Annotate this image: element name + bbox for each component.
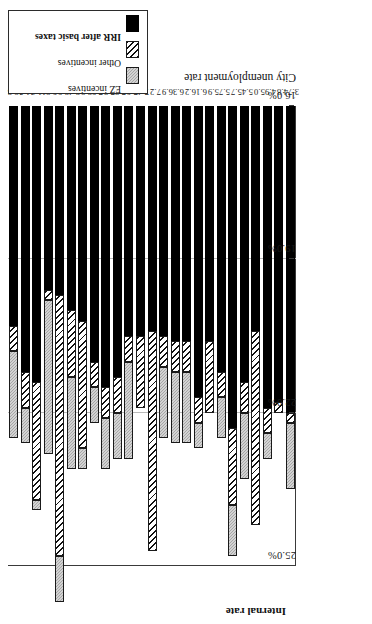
bar-row	[182, 106, 191, 566]
bar-segment-other-incentives	[205, 341, 214, 413]
bar-row	[113, 106, 122, 566]
bar-row	[9, 106, 18, 566]
bar-segment-other-incentives	[113, 377, 122, 413]
bar-segment-irr-after-basic-taxes	[21, 106, 30, 372]
bar-segment-ez-incentives	[228, 505, 237, 556]
bar-segment-other-incentives	[67, 310, 76, 376]
bar-segment-irr-after-basic-taxes	[205, 106, 214, 341]
bar-row	[217, 106, 226, 566]
bar-segment-other-incentives	[78, 321, 87, 449]
bar-segment-other-incentives	[217, 372, 226, 398]
bar-segment-ez-incentives	[217, 397, 226, 438]
bar-row	[286, 106, 295, 566]
bar-row	[205, 106, 214, 566]
value-axis-tick	[289, 412, 294, 413]
bar-segment-other-incentives	[21, 372, 30, 408]
bar-row	[21, 106, 30, 566]
bar-row	[274, 106, 283, 566]
bar-segment-ez-incentives	[124, 362, 133, 459]
bar-row	[32, 106, 41, 566]
bar-segment-irr-after-basic-taxes	[217, 106, 226, 372]
bar-segment-ez-incentives	[9, 351, 18, 438]
value-axis-tick	[289, 258, 294, 259]
bar-segment-irr-after-basic-taxes	[78, 106, 87, 321]
bar-segment-ez-incentives	[171, 372, 180, 444]
bar-segment-other-incentives	[182, 341, 191, 372]
legend-label: Other incentives	[58, 58, 121, 69]
bar-segment-other-incentives	[228, 428, 237, 505]
value-axis-tick	[289, 565, 294, 566]
bar-row	[44, 106, 53, 566]
bar-segment-irr-after-basic-taxes	[251, 106, 260, 331]
bar-segment-other-incentives	[101, 387, 110, 418]
category-tick-label: 6.1	[196, 87, 207, 97]
bar-segment-ez-incentives	[21, 408, 30, 444]
category-tick-label: 7.2	[150, 87, 161, 97]
bar-segment-ez-incentives	[44, 300, 53, 453]
axis-title-internal-rate: Internal rate	[226, 606, 286, 618]
bar-row	[136, 106, 145, 566]
bar-segment-ez-incentives	[159, 367, 168, 439]
bar-segment-irr-after-basic-taxes	[113, 106, 122, 377]
category-tick-label: 5.9	[208, 87, 219, 97]
category-tick-label: 5.4	[242, 87, 253, 97]
bar-segment-irr-after-basic-taxes	[32, 106, 41, 382]
bar-segment-irr-after-basic-taxes	[171, 106, 180, 341]
legend-swatch-irr	[126, 15, 139, 32]
legend-box: EZ incentivesOther incentivesIRR after b…	[8, 10, 148, 94]
bar-segment-irr-after-basic-taxes	[136, 106, 145, 336]
bar-segment-other-incentives	[44, 290, 53, 300]
bar-row	[67, 106, 76, 566]
bar-segment-other-incentives	[136, 336, 145, 408]
bar-segment-irr-after-basic-taxes	[286, 106, 295, 413]
bar-segment-other-incentives	[124, 336, 133, 362]
bar-row	[148, 106, 157, 566]
bar-segment-other-incentives	[263, 408, 272, 434]
bar-segment-irr-after-basic-taxes	[67, 106, 76, 310]
value-axis-tick-label: 19.0%	[268, 243, 296, 254]
value-axis-tick-label: 25.0%	[268, 550, 296, 561]
bar-segment-irr-after-basic-taxes	[90, 106, 99, 362]
legend-label: EZ incentives	[68, 84, 121, 95]
bar-segment-ez-incentives	[78, 448, 87, 468]
bar-segment-ez-incentives	[32, 500, 41, 510]
bar-row	[263, 106, 272, 566]
bar-series-container	[8, 106, 296, 566]
bar-segment-other-incentives	[194, 397, 203, 423]
legend-item: IRR after basic taxes	[17, 9, 141, 35]
bar-segment-ez-incentives	[113, 413, 122, 459]
category-tick-label: 5.7	[219, 87, 230, 97]
bar-row	[251, 106, 260, 566]
bar-row	[228, 106, 237, 566]
bar-segment-ez-incentives	[263, 433, 272, 459]
bar-segment-ez-incentives	[90, 387, 99, 423]
bar-segment-other-incentives	[286, 413, 295, 423]
bar-segment-irr-after-basic-taxes	[124, 106, 133, 336]
category-tick-label: 6.3	[173, 87, 184, 97]
bar-segment-ez-incentives	[286, 423, 295, 489]
bar-segment-ez-incentives	[55, 556, 64, 602]
bar-segment-irr-after-basic-taxes	[228, 106, 237, 428]
bar-segment-other-incentives	[9, 326, 18, 352]
bar-segment-irr-after-basic-taxes	[101, 106, 110, 387]
category-tick-label: 6.2	[185, 87, 196, 97]
bar-segment-ez-incentives	[182, 372, 191, 444]
category-tick-label: 6.9	[161, 87, 172, 97]
value-axis-tick	[289, 105, 294, 106]
category-tick-label: 4.9	[265, 87, 276, 97]
value-axis-tick-label: 22.0%	[268, 397, 296, 408]
bar-segment-irr-after-basic-taxes	[159, 106, 168, 336]
plot-area	[8, 106, 296, 566]
bar-segment-irr-after-basic-taxes	[148, 106, 157, 331]
bar-segment-irr-after-basic-taxes	[55, 106, 64, 295]
bar-segment-ez-incentives	[101, 418, 110, 469]
bar-row	[194, 106, 203, 566]
category-tick-label: 5.7	[231, 87, 242, 97]
bar-segment-other-incentives	[90, 362, 99, 388]
bar-segment-other-incentives	[32, 382, 41, 500]
legend-swatch-ez	[126, 67, 139, 84]
legend-swatch-other	[126, 41, 139, 58]
bar-segment-irr-after-basic-taxes	[182, 106, 191, 341]
bar-segment-other-incentives	[251, 331, 260, 525]
bar-segment-irr-after-basic-taxes	[44, 106, 53, 290]
